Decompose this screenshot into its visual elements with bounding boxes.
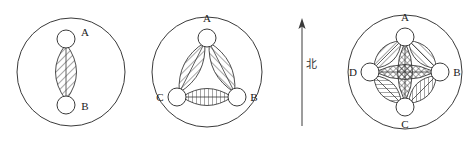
panels-layer: ABACBABCD bbox=[17, 11, 462, 130]
node-circle-A[interactable] bbox=[396, 28, 414, 46]
node-label-D: D bbox=[349, 66, 357, 78]
bond-lens-AC bbox=[179, 42, 205, 92]
bond-lens-CB bbox=[182, 89, 232, 106]
bond-lens-CD bbox=[374, 76, 402, 104]
node-circle-C[interactable] bbox=[168, 88, 186, 106]
node-label-B: B bbox=[250, 91, 257, 103]
node-circle-C[interactable] bbox=[396, 98, 414, 116]
figure-container: ABACBABCD 北 bbox=[0, 0, 473, 143]
bond-lens-AB bbox=[209, 42, 235, 92]
node-circle-B[interactable] bbox=[228, 88, 246, 106]
bond-lens-AB bbox=[56, 44, 77, 100]
node-label-A: A bbox=[203, 12, 211, 24]
compass-label: 北 bbox=[306, 58, 317, 71]
node-label-C: C bbox=[401, 118, 408, 130]
node-label-B: B bbox=[453, 66, 460, 78]
bond-lens-DB bbox=[375, 65, 435, 80]
bond-lens-AB bbox=[409, 41, 437, 69]
node-circle-D[interactable] bbox=[361, 63, 379, 81]
node-label-A: A bbox=[401, 11, 409, 23]
diagram-canvas: ABACBABCD 北 bbox=[0, 0, 473, 143]
compass-rose: 北 bbox=[298, 18, 316, 126]
node-circle-B[interactable] bbox=[431, 63, 449, 81]
node-label-A: A bbox=[81, 26, 89, 38]
three-node-diagram: ACB bbox=[152, 12, 262, 127]
node-circle-B[interactable] bbox=[57, 96, 75, 114]
node-label-C: C bbox=[156, 91, 163, 103]
two-node-diagram: AB bbox=[17, 18, 125, 126]
node-circle-A[interactable] bbox=[198, 29, 216, 47]
node-label-B: B bbox=[81, 100, 88, 112]
bond-lens-DA bbox=[374, 41, 402, 69]
four-node-diagram: ABCD bbox=[348, 11, 462, 130]
node-circle-A[interactable] bbox=[57, 30, 75, 48]
bond-lens-BC bbox=[409, 76, 437, 104]
